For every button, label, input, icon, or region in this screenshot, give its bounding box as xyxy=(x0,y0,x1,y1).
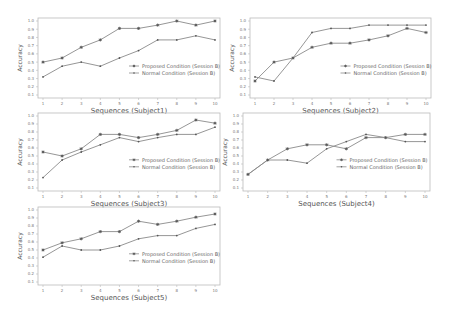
star-marker-icon xyxy=(194,118,197,121)
x-tick-label: 2 xyxy=(61,288,64,293)
star-marker-icon xyxy=(364,136,367,139)
dot-marker-icon xyxy=(195,228,197,230)
dot-marker-icon xyxy=(330,28,332,30)
x-axis-label: Sequences (Subject4) xyxy=(298,200,375,208)
legend: Proposed Condition (Session B)Normal Con… xyxy=(129,251,220,264)
x-tick-label: 2 xyxy=(61,101,64,106)
dot-marker-icon xyxy=(214,126,216,128)
dot-marker-icon xyxy=(157,235,159,237)
star-marker-icon xyxy=(99,230,102,233)
star-marker-icon xyxy=(348,42,351,45)
legend-star-icon xyxy=(133,65,136,68)
dot-marker-icon xyxy=(267,159,269,161)
legend-label-normal: Normal Condition (Session B) xyxy=(354,70,427,76)
dot-marker-icon xyxy=(292,57,294,59)
y-tick-label: 0.8 xyxy=(28,129,35,134)
y-tick-label: 0.4 xyxy=(28,255,35,260)
x-tick-label: 4 xyxy=(99,194,102,199)
x-tick-label: 8 xyxy=(387,101,390,106)
dot-marker-icon xyxy=(247,174,249,176)
x-tick-label: 10 xyxy=(212,194,218,199)
star-marker-icon xyxy=(213,19,216,22)
x-tick-label: 9 xyxy=(404,194,407,199)
x-tick-label: 7 xyxy=(156,194,159,199)
dot-marker-icon xyxy=(387,24,389,26)
x-tick-label: 3 xyxy=(286,194,289,199)
x-tick-label: 6 xyxy=(345,194,348,199)
y-tick-label: 0.6 xyxy=(240,51,247,56)
x-tick-label: 5 xyxy=(118,101,121,106)
y-tick-label: 0.1 xyxy=(233,185,240,190)
x-tick-label: 7 xyxy=(156,101,159,106)
y-tick-label: 0.8 xyxy=(28,223,35,228)
legend-star-icon xyxy=(340,158,343,161)
y-tick-label: 0.3 xyxy=(28,76,35,81)
legend: Proposed Condition (Session B)Normal Con… xyxy=(341,63,432,76)
x-tick-label: 10 xyxy=(212,101,218,106)
x-tick-label: 4 xyxy=(99,288,102,293)
dot-marker-icon xyxy=(214,224,216,226)
star-marker-icon xyxy=(329,42,332,45)
legend: Proposed Condition (Session B)Normal Con… xyxy=(129,157,220,170)
x-axis-label: Sequences (Subject2) xyxy=(302,107,379,115)
star-marker-icon xyxy=(272,61,275,64)
star-marker-icon xyxy=(175,129,178,132)
x-tick-label: 8 xyxy=(176,194,179,199)
x-tick-label: 4 xyxy=(99,101,102,106)
star-marker-icon xyxy=(194,24,197,27)
plot-frame xyxy=(38,18,220,98)
star-marker-icon xyxy=(175,220,178,223)
star-marker-icon xyxy=(156,24,159,27)
legend-dot-icon xyxy=(133,166,135,168)
dot-marker-icon xyxy=(424,141,426,143)
x-tick-label: 4 xyxy=(306,194,309,199)
x-tick-label: 9 xyxy=(406,101,409,106)
star-marker-icon xyxy=(137,27,140,30)
y-tick-label: 0.6 xyxy=(28,239,35,244)
dot-marker-icon xyxy=(61,245,63,247)
x-axis-label: Sequences (Subject5) xyxy=(91,294,168,302)
star-marker-icon xyxy=(156,223,159,226)
star-marker-icon xyxy=(305,143,308,146)
dot-marker-icon xyxy=(42,76,44,78)
legend: Proposed Condition (Session B)Normal Con… xyxy=(129,63,220,76)
x-tick-label: 2 xyxy=(266,194,269,199)
y-tick-label: 0.7 xyxy=(28,231,35,236)
dot-marker-icon xyxy=(311,32,313,34)
star-marker-icon xyxy=(156,133,159,136)
y-axis-label: Accuracy xyxy=(16,138,24,166)
y-tick-label: 1.0 xyxy=(28,207,35,212)
y-tick-label: 1.0 xyxy=(28,113,35,118)
y-tick-label: 0.1 xyxy=(28,279,35,284)
star-marker-icon xyxy=(310,46,313,49)
star-marker-icon xyxy=(41,150,44,153)
y-tick-label: 1.0 xyxy=(240,18,247,23)
star-marker-icon xyxy=(253,79,256,82)
x-tick-label: 3 xyxy=(80,101,83,106)
figure: 0.10.20.30.40.50.60.70.80.91.01234567891… xyxy=(0,0,451,310)
y-tick-label: 0.4 xyxy=(28,68,35,73)
dot-marker-icon xyxy=(138,50,140,52)
star-marker-icon xyxy=(118,230,121,233)
dot-marker-icon xyxy=(214,39,216,41)
star-marker-icon xyxy=(345,147,348,150)
x-tick-label: 5 xyxy=(325,194,328,199)
legend-label-normal: Normal Condition (Session B) xyxy=(350,164,423,170)
y-tick-label: 0.5 xyxy=(28,153,35,158)
x-tick-label: 9 xyxy=(195,288,198,293)
y-tick-label: 0.7 xyxy=(28,137,35,142)
dot-marker-icon xyxy=(42,256,44,258)
y-tick-label: 0.2 xyxy=(233,177,240,182)
dot-marker-icon xyxy=(286,159,288,161)
y-tick-label: 0.5 xyxy=(240,60,247,65)
dot-marker-icon xyxy=(119,137,121,139)
x-tick-label: 2 xyxy=(61,194,64,199)
star-marker-icon xyxy=(80,147,83,150)
y-tick-label: 0.5 xyxy=(28,60,35,65)
dot-marker-icon xyxy=(157,39,159,41)
dot-marker-icon xyxy=(176,39,178,41)
legend-label-proposed: Proposed Condition (Session B) xyxy=(142,63,220,70)
y-tick-label: 0.5 xyxy=(233,153,240,158)
x-tick-label: 10 xyxy=(422,194,428,199)
x-tick-label: 5 xyxy=(330,101,333,106)
